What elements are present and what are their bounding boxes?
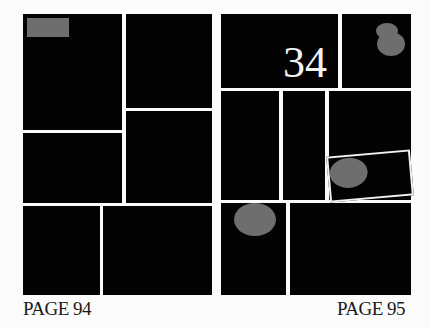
p95-tilted-inset-panel [326, 149, 414, 202]
p94-panel-middle-left [23, 133, 122, 203]
p94-panel-bottom-left [23, 206, 100, 295]
p95-panel-middle-1 [221, 91, 279, 200]
p94-panel-top-right [126, 14, 212, 108]
speech-balloon [234, 203, 276, 236]
p95-panel-top-left: 34 [221, 14, 338, 88]
panel-number: 34 [283, 41, 327, 85]
speech-balloon [328, 156, 368, 189]
p95-panel-middle-2 [283, 91, 325, 200]
page-95-label: PAGE 95 [337, 298, 405, 320]
speech-balloon [377, 32, 405, 56]
p95-panel-top-right [342, 14, 411, 88]
p95-panel-bottom-left [221, 203, 286, 295]
caption-box [27, 18, 69, 37]
p94-panel-top-left [23, 14, 122, 130]
p94-panel-bottom-right [103, 206, 212, 295]
page-94-label: PAGE 94 [23, 298, 91, 320]
p95-panel-bottom-right [290, 203, 411, 295]
p94-panel-middle-right [126, 111, 212, 203]
